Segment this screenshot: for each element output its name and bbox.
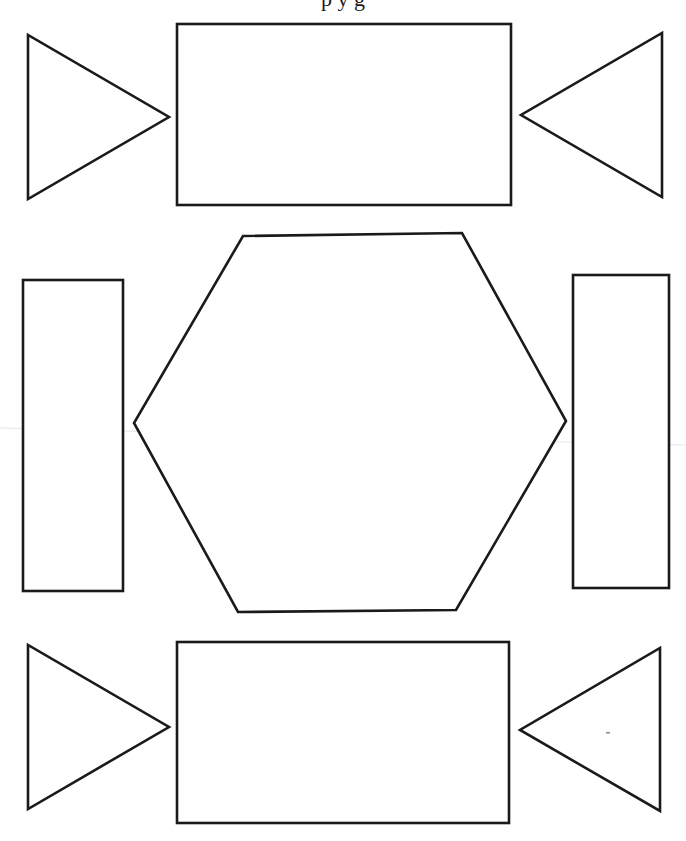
shape-net-diagram [0,0,686,841]
scan-speck [606,732,610,734]
right-rectangle [573,275,669,588]
bottom-left-triangle [28,645,169,809]
bottom-right-triangle [520,648,660,811]
left-rectangle [23,280,123,591]
top-left-triangle [28,35,169,199]
hexagon [134,233,566,612]
bottom-rectangle [177,642,509,823]
top-rectangle [177,24,511,205]
top-right-triangle [521,33,662,197]
